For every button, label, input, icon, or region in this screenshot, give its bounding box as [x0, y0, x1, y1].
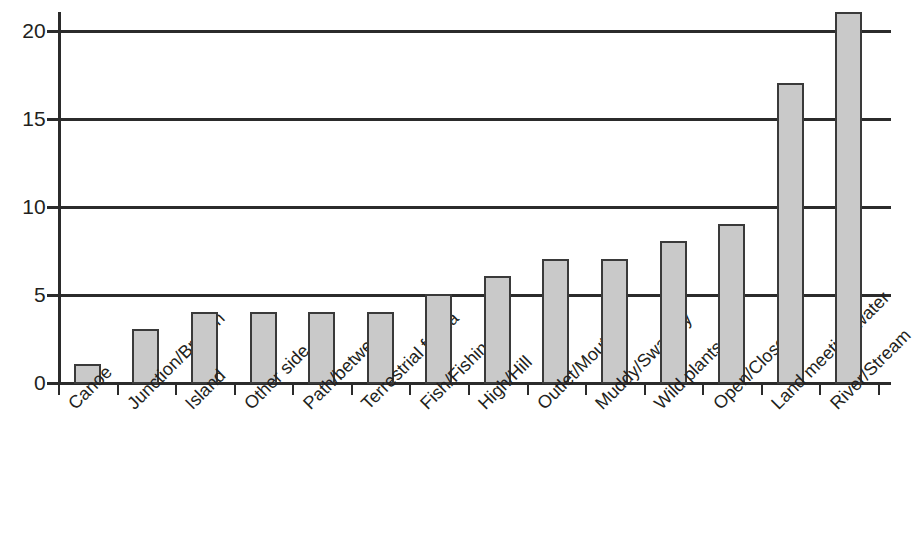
x-tick-mark: [702, 384, 704, 395]
y-axis-tick-label: 5: [0, 284, 46, 305]
x-axis-tick-label: Island: [182, 366, 229, 413]
bar: [835, 12, 862, 384]
y-axis-tick-label: 20: [0, 20, 46, 41]
bar: [718, 224, 745, 384]
bar: [542, 259, 569, 384]
x-tick-mark: [585, 384, 587, 395]
y-tick-mark-15: [47, 118, 60, 121]
y-axis-tick-label: 0: [0, 372, 46, 393]
y-axis-line: [58, 12, 61, 382]
x-tick-mark: [644, 384, 646, 395]
x-tick-mark: [175, 384, 177, 395]
x-tick-mark: [351, 384, 353, 395]
y-tick-mark-10: [47, 206, 60, 209]
gridline-y-5: [58, 294, 891, 297]
y-tick-mark-5: [47, 294, 60, 297]
y-axis-tick-label: 15: [0, 108, 46, 129]
gridline-y-10: [58, 206, 891, 209]
x-tick-mark: [468, 384, 470, 395]
x-tick-mark-origin: [58, 384, 60, 395]
bar: [660, 241, 687, 384]
bar: [777, 83, 804, 384]
y-axis-tick-label: 10: [0, 196, 46, 217]
gridline-y-15: [58, 118, 891, 121]
x-tick-mark: [117, 384, 119, 395]
y-tick-mark-20: [47, 30, 60, 33]
x-tick-mark: [761, 384, 763, 395]
x-tick-mark: [878, 384, 880, 395]
x-tick-mark: [409, 384, 411, 395]
x-tick-mark: [527, 384, 529, 395]
x-tick-mark: [234, 384, 236, 395]
gridline-y-20: [58, 30, 891, 33]
x-tick-mark: [292, 384, 294, 395]
x-axis-baseline: [58, 382, 891, 385]
x-tick-mark: [819, 384, 821, 395]
